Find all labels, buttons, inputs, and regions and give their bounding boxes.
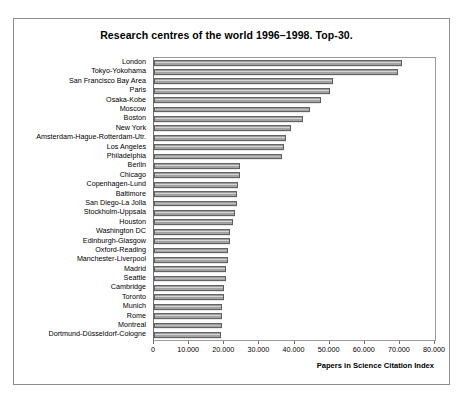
bar-row <box>154 180 435 189</box>
x-axis-tick-label: 70.000 <box>388 345 410 354</box>
bar <box>154 295 224 301</box>
category-label: Toronto <box>122 293 149 300</box>
x-axis-tick <box>329 341 330 344</box>
x-axis-tick-labels: 010.00020.00030.00040.00050.00060.00070.… <box>14 345 451 359</box>
category-label-row: Osaka-Kobe <box>14 95 149 104</box>
x-axis-tick <box>188 341 189 344</box>
bar <box>154 229 230 235</box>
category-label: Philadelphia <box>107 152 149 159</box>
category-label: Washington DC <box>96 227 149 234</box>
bar <box>154 154 282 160</box>
x-axis-tick <box>434 341 435 344</box>
category-label-row: Toronto <box>14 292 149 301</box>
category-label: Chicago <box>120 171 149 178</box>
category-label-row: Baltimore <box>14 188 149 197</box>
x-axis-tick <box>399 341 400 344</box>
category-label-row: Boston <box>14 113 149 122</box>
category-label: San Diego-La Jolla <box>85 199 149 206</box>
bar-row <box>154 171 435 180</box>
bar-row <box>154 199 435 208</box>
bar-row <box>154 96 435 105</box>
bar-row <box>154 208 435 217</box>
bar <box>154 323 222 329</box>
bar <box>154 116 303 122</box>
bar-row <box>154 152 435 161</box>
category-label: Los Angeles <box>107 143 149 150</box>
bar-row <box>154 246 435 255</box>
category-label: London <box>122 58 149 65</box>
category-label: Moscow <box>120 105 149 112</box>
x-axis-tick-label: 20.000 <box>212 345 234 354</box>
bar <box>154 313 222 319</box>
category-label-row: Manchester-Liverpool <box>14 254 149 263</box>
category-label: Houston <box>119 218 149 225</box>
category-label: Amsterdam-Hague-Rotterdam-Utr. <box>36 133 149 140</box>
bar-row <box>154 124 435 133</box>
category-axis-labels: LondonTokyo-YokohamaSan Francisco Bay Ar… <box>14 57 149 341</box>
bar <box>154 69 398 75</box>
x-axis-tick <box>223 341 224 344</box>
bar <box>154 332 221 338</box>
category-label: Cambridge <box>111 283 149 290</box>
category-label-row: Seattle <box>14 273 149 282</box>
bar-row <box>154 143 435 152</box>
bar <box>154 285 224 291</box>
category-label: Madrid <box>124 265 149 272</box>
bar <box>154 210 235 216</box>
category-label-row: Copenhagen-Lund <box>14 179 149 188</box>
bar <box>154 219 233 225</box>
x-axis-tick <box>294 341 295 344</box>
bar-row <box>154 58 435 67</box>
bar <box>154 276 226 282</box>
bar-row <box>154 161 435 170</box>
category-label: Baltimore <box>116 190 149 197</box>
bar <box>154 191 237 197</box>
category-label-row: Rome <box>14 311 149 320</box>
bar-row <box>154 312 435 321</box>
category-label: Edinburgh-Glasgow <box>83 237 149 244</box>
x-axis-tick-label: 50.000 <box>318 345 340 354</box>
category-label-row: Dortmund-Düsseldorf-Cologne <box>14 329 149 338</box>
category-label-row: Edinburgh-Glasgow <box>14 235 149 244</box>
bar-row <box>154 227 435 236</box>
bar-row <box>154 133 435 142</box>
category-label-row: San Francisco Bay Area <box>14 76 149 85</box>
category-label-row: Berlin <box>14 160 149 169</box>
category-label-row: Munich <box>14 301 149 310</box>
category-label-row: Oxford-Reading <box>14 245 149 254</box>
bar-row <box>154 236 435 245</box>
bar <box>154 182 238 188</box>
category-label-row: London <box>14 57 149 66</box>
bar-row <box>154 283 435 292</box>
bar-row <box>154 189 435 198</box>
category-label: Berlin <box>128 161 149 168</box>
x-axis-tick-label: 40.000 <box>283 345 305 354</box>
category-label: Osaka-Kobe <box>106 96 149 103</box>
category-label-row: Stockholm-Uppsala <box>14 207 149 216</box>
category-label-row: Montreal <box>14 320 149 329</box>
chart-title: Research centres of the world 1996–1998.… <box>14 29 439 41</box>
bar <box>154 201 237 207</box>
x-axis-tick <box>258 341 259 344</box>
bar <box>154 238 230 244</box>
bar <box>154 135 286 141</box>
bar-row <box>154 330 435 339</box>
category-label-row: New York <box>14 123 149 132</box>
category-label: Munich <box>123 302 149 309</box>
bar <box>154 266 226 272</box>
x-axis-title: Papers in Science Citation Index <box>14 361 434 370</box>
bar <box>154 163 240 169</box>
bar-row <box>154 265 435 274</box>
category-label-row: Washington DC <box>14 226 149 235</box>
category-label-row: Philadelphia <box>14 151 149 160</box>
category-label-row: Chicago <box>14 170 149 179</box>
category-label: Seattle <box>124 274 149 281</box>
category-label-row: Amsterdam-Hague-Rotterdam-Utr. <box>14 132 149 141</box>
bar-row <box>154 218 435 227</box>
bar-row <box>154 321 435 330</box>
category-label: New York <box>116 124 149 131</box>
category-label: Boston <box>124 114 149 121</box>
bar-row <box>154 114 435 123</box>
x-axis-tick-label: 60.000 <box>353 345 375 354</box>
category-label: San Francisco Bay Area <box>69 77 149 84</box>
